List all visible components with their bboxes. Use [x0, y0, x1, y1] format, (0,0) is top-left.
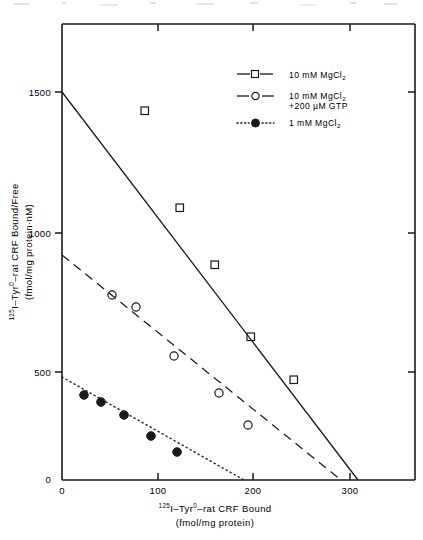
data-point-circle-filled	[120, 411, 129, 420]
data-point-square	[211, 261, 219, 269]
data-point-circle-open	[244, 421, 252, 429]
data-point-circle-filled	[97, 398, 106, 407]
legend-label-3: 1 mM MgCl2	[289, 118, 341, 129]
series-10mm-mgcl2-gtp	[62, 255, 341, 480]
legend-label-2b: +200 µM GTP	[289, 101, 348, 111]
data-point-circle-filled	[147, 432, 156, 441]
legend-marker-open-square	[252, 71, 259, 78]
data-point-circle-filled	[80, 391, 89, 400]
x-axis-tick-labels: 0 100 200 300	[59, 485, 358, 496]
legend: 10 mM MgCl2 10 mM MgCl2 +200 µM GTP 1 mM…	[237, 70, 348, 130]
legend-marker-filled-circle	[252, 119, 260, 127]
plot-frame	[62, 24, 415, 480]
plot-canvas: 0 500 1000 1500 0 100 200 300	[0, 0, 423, 540]
legend-label-1: 10 mM MgCl2	[289, 70, 346, 81]
fit-line-solid	[62, 92, 358, 480]
legend-marker-open-circle	[252, 92, 259, 99]
fit-line-dotted	[62, 377, 244, 480]
y-axis-ticks	[55, 92, 415, 372]
scatchard-plot-figure: 0 500 1000 1500 0 100 200 300	[0, 0, 423, 540]
fit-line-dashed	[62, 255, 341, 480]
x-tick-label-100: 100	[150, 485, 167, 496]
legend-entry-10mm-mgcl2: 10 mM MgCl2	[237, 70, 346, 81]
y-tick-label-500: 500	[34, 367, 51, 378]
legend-entry-10mm-mgcl2-gtp: 10 mM MgCl2 +200 µM GTP	[237, 91, 348, 111]
x-axis-title: 125I–Tyr0–rat CRF Bound (fmol/mg protein…	[159, 502, 272, 528]
x-axis-title-line1: 125I–Tyr0–rat CRF Bound	[159, 502, 272, 514]
y-axis-title-line1: 125I–Tyr0–rat CRF Bound/Free	[8, 183, 20, 320]
x-tick-label-0: 0	[59, 485, 65, 496]
data-point-circle-filled	[173, 448, 182, 457]
data-point-circle-open	[170, 352, 178, 360]
y-tick-label-1500: 1500	[29, 87, 51, 98]
data-point-circle-open	[215, 389, 223, 397]
data-point-circle-open	[132, 303, 140, 311]
data-point-square	[141, 107, 149, 115]
series-10mm-mgcl2	[62, 92, 358, 480]
x-tick-label-300: 300	[342, 485, 359, 496]
y-tick-label-0: 0	[45, 474, 51, 485]
x-tick-label-200: 200	[245, 485, 262, 496]
y-axis-title-line2: (fmol/mg protein·nM)	[23, 204, 34, 300]
scan-artifact-band	[14, 3, 398, 5]
x-axis-title-line2: (fmol/mg protein)	[176, 517, 255, 528]
legend-entry-1mm-mgcl2: 1 mM MgCl2	[237, 118, 341, 129]
series-1mm-mgcl2	[62, 377, 244, 480]
data-point-square	[176, 204, 184, 212]
data-point-square	[290, 376, 298, 384]
y-axis-title: 125I–Tyr0–rat CRF Bound/Free (fmol/mg pr…	[8, 183, 34, 320]
